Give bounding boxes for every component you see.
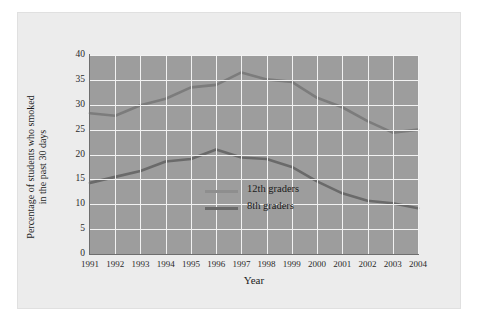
gridline-horizontal xyxy=(90,80,418,81)
gridline-vertical xyxy=(166,55,167,254)
plot-area xyxy=(90,55,418,254)
gridline-horizontal xyxy=(90,130,418,131)
gridline-horizontal xyxy=(90,105,418,106)
y-tick-label: 35 xyxy=(59,75,85,84)
line-chart: 0510152025303540 Percentage of students … xyxy=(0,0,484,327)
gridline-vertical xyxy=(241,55,242,254)
gridline-vertical xyxy=(393,55,394,254)
gridline-vertical xyxy=(140,55,141,254)
gridline-vertical xyxy=(216,55,217,254)
y-axis-title-line1: Percentage of students who smoked xyxy=(25,72,37,262)
y-tick-label: 10 xyxy=(59,199,85,208)
y-tick-label: 0 xyxy=(59,249,85,258)
gridline-vertical xyxy=(267,55,268,254)
gridline-vertical xyxy=(191,55,192,254)
y-axis-line xyxy=(89,54,90,255)
gridline-vertical xyxy=(368,55,369,254)
gridline-horizontal xyxy=(90,155,418,156)
y-axis-ticks: 0510152025303540 xyxy=(57,0,85,327)
gridline-vertical xyxy=(115,55,116,254)
x-axis-line xyxy=(89,254,419,255)
legend-label: 12th graders xyxy=(247,183,299,194)
gridline-horizontal xyxy=(90,229,418,230)
y-tick-label: 30 xyxy=(59,100,85,109)
gridline-horizontal xyxy=(90,179,418,180)
legend-label: 8th graders xyxy=(247,200,294,211)
x-axis-title: Year xyxy=(90,274,418,286)
y-tick-label: 5 xyxy=(59,224,85,233)
y-tick-label: 20 xyxy=(59,150,85,159)
legend-swatch xyxy=(205,207,238,210)
y-tick-label: 15 xyxy=(59,174,85,183)
y-tick-label: 25 xyxy=(59,125,85,134)
y-axis-title-line2: in the past 30 days xyxy=(37,72,49,262)
y-tick-label: 40 xyxy=(59,50,85,59)
gridline-horizontal xyxy=(90,55,418,56)
y-axis-title: Percentage of students who smoked in the… xyxy=(25,72,49,262)
gridline-vertical xyxy=(418,55,419,254)
x-tick-label: 2004 xyxy=(402,259,434,270)
gridline-vertical xyxy=(292,55,293,254)
gridline-vertical xyxy=(317,55,318,254)
gridline-vertical xyxy=(342,55,343,254)
series-line xyxy=(90,72,418,132)
legend-swatch xyxy=(205,190,238,193)
